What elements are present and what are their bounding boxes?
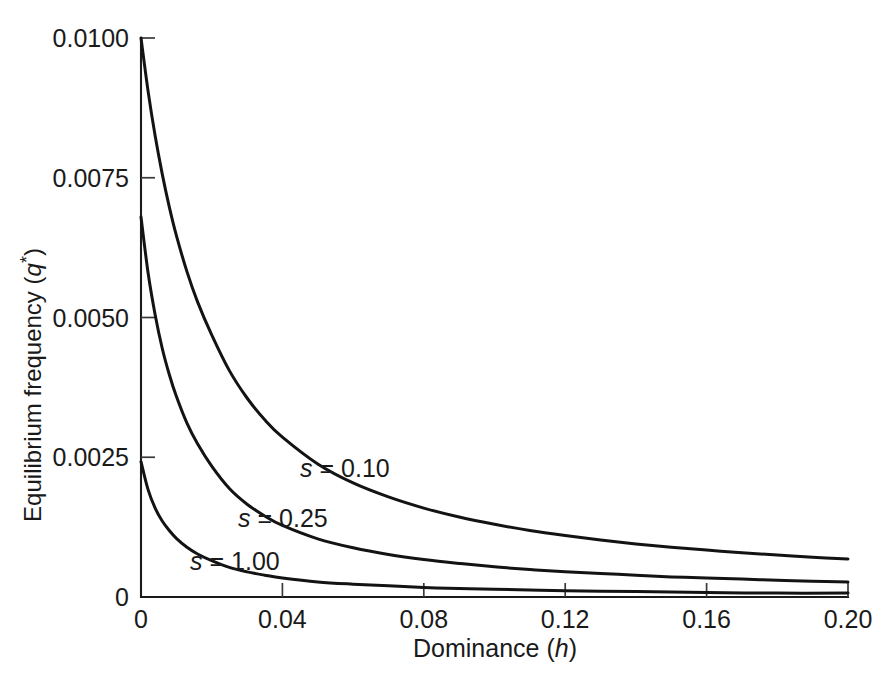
x-tick-label: 0.16 — [682, 605, 731, 633]
series-label-variable: s — [238, 504, 251, 532]
series-label-value: = 0.10 — [320, 454, 390, 482]
y-tick-labels: 00.00250.00500.00750.0100 — [53, 24, 129, 611]
x-axis-title-text: Dominance ( — [413, 634, 555, 662]
data-curve — [141, 38, 848, 559]
series-label: s= 0.10 — [300, 454, 390, 482]
y-axis-title-text: Equilibrium frequency ( — [19, 276, 46, 521]
y-tick-label: 0.0075 — [53, 164, 129, 192]
series-annotations: s= 0.10s= 0.25s= 1.00 — [190, 454, 390, 575]
equilibrium-frequency-chart: 00.040.080.120.160.20 00.00250.00500.007… — [0, 0, 893, 686]
x-tick-labels: 00.040.080.120.160.20 — [134, 605, 872, 633]
x-tick-label: 0.12 — [541, 605, 590, 633]
x-tick-label: 0.04 — [258, 605, 307, 633]
series-label-value: = 0.25 — [258, 504, 328, 532]
chart-figure: 00.040.080.120.160.20 00.00250.00500.007… — [0, 0, 893, 686]
x-tick-label: 0.08 — [399, 605, 448, 633]
y-axis-title-superscript: * — [17, 256, 37, 263]
series-label-variable: s — [190, 547, 203, 575]
x-axis-title-variable: h — [555, 634, 569, 662]
y-axis-title-variable: q — [19, 262, 46, 276]
x-axis-title: Dominance (h) — [413, 634, 577, 662]
y-tick-label: 0.0100 — [53, 24, 129, 52]
series-label: s= 1.00 — [190, 547, 280, 575]
y-axis-title: Equilibrium frequency (q*) — [17, 248, 46, 522]
series-label-variable: s — [300, 454, 313, 482]
y-tick-label: 0 — [115, 583, 129, 611]
y-axis-title-tail: ) — [19, 248, 46, 256]
y-tick-label: 0.0025 — [53, 443, 129, 471]
y-tick-label: 0.0050 — [53, 304, 129, 332]
series-label-value: = 1.00 — [210, 547, 280, 575]
y-axis-title-group: Equilibrium frequency (q*) — [17, 248, 46, 522]
x-tick-label: 0.20 — [824, 605, 873, 633]
x-tick-label: 0 — [134, 605, 148, 633]
x-axis-title-tail: ) — [569, 634, 577, 662]
